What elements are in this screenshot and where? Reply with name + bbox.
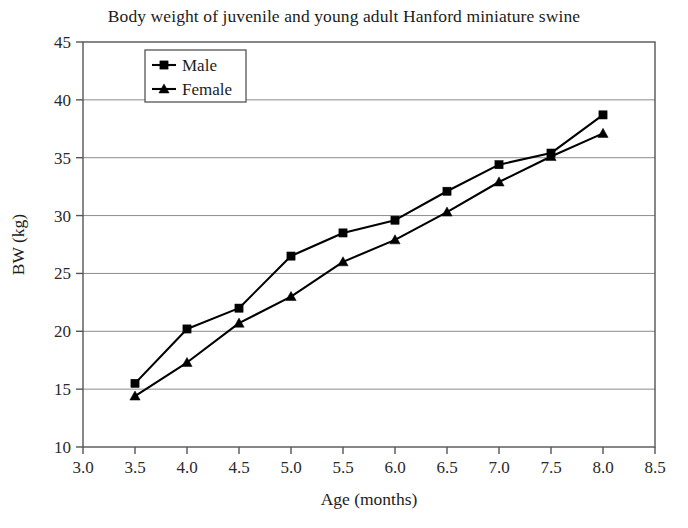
x-tick-label: 6.0 [384,458,405,477]
square-marker-icon [183,325,191,333]
x-tick-label: 8.5 [644,458,665,477]
triangle-marker-icon [130,391,140,400]
y-tick-label: 15 [54,380,71,399]
y-axis-title: BW (kg) [8,214,28,276]
x-tick-label: 3.0 [72,458,93,477]
square-marker-icon [443,187,451,195]
square-marker-icon [495,161,503,169]
x-axis-tick-labels: 3.03.54.04.55.05.56.06.57.07.58.08.5 [72,458,665,477]
series-line [135,115,603,383]
triangle-marker-icon [442,207,452,216]
y-tick-label: 20 [54,322,71,341]
y-tick-label: 45 [54,33,71,52]
square-marker-icon [599,111,607,119]
triangle-marker-icon [234,318,244,327]
x-tick-label: 3.5 [124,458,145,477]
plot-frame [83,42,655,447]
square-marker-icon [339,229,347,237]
x-tick-label: 5.5 [332,458,353,477]
y-tick-label: 30 [54,207,71,226]
x-tick-label: 8.0 [592,458,613,477]
x-tick-label: 7.0 [488,458,509,477]
series-line [135,133,603,396]
y-tick-label: 35 [54,149,71,168]
y-tick-label: 40 [54,91,71,110]
legend-label: Female [182,80,232,99]
x-tick-label: 4.5 [228,458,249,477]
series-female [130,128,608,400]
chart-legend: MaleFemale [145,50,246,102]
data-series-group [130,111,608,400]
square-marker-icon [131,379,139,387]
triangle-marker-icon [494,177,504,186]
triangle-marker-icon [286,291,296,300]
y-tick-label: 25 [54,264,71,283]
x-tick-label: 7.5 [540,458,561,477]
x-tick-label: 6.5 [436,458,457,477]
line-chart-plot: 1015202530354045 3.03.54.04.55.05.56.06.… [0,0,688,528]
square-marker-icon [391,216,399,224]
series-male [131,111,607,388]
square-marker-icon [160,61,168,69]
y-tick-label: 10 [54,438,71,457]
x-axis-ticks [83,447,655,454]
y-axis-tick-labels: 1015202530354045 [54,33,71,457]
triangle-marker-icon [390,235,400,244]
square-marker-icon [235,304,243,312]
gridlines-group [83,100,655,389]
x-tick-label: 4.0 [176,458,197,477]
square-marker-icon [287,252,295,260]
chart-figure: Body weight of juvenile and young adult … [0,0,688,528]
triangle-marker-icon [598,128,608,137]
legend-label: Male [182,56,217,75]
x-axis-title: Age (months) [321,489,418,509]
y-axis-ticks [76,42,83,447]
x-tick-label: 5.0 [280,458,301,477]
plot-border [83,42,655,447]
